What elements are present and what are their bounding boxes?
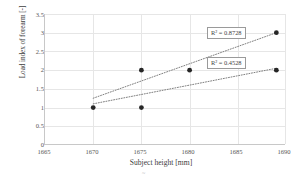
- data-point: [274, 68, 279, 73]
- x-axis-tick-label: 1665: [29, 148, 59, 155]
- y-axis-tick-label: 3: [22, 29, 44, 36]
- x-axis-title: Subject height [mm]: [36, 158, 286, 167]
- r-squared-text-lower: R² = 0.4528: [211, 59, 242, 66]
- x-axis-tick-label: 1690: [269, 148, 291, 155]
- y-axis-tick-label: 0.5: [22, 122, 44, 129]
- data-point: [187, 68, 192, 73]
- r-squared-text-upper: R² = 0.8728: [211, 29, 242, 36]
- data-point: [91, 105, 96, 110]
- y-axis-tick-label: 1.5: [22, 85, 44, 92]
- r-squared-label-lower: R² = 0.4528: [207, 57, 246, 69]
- trendline: [93, 33, 276, 99]
- y-axis-tick-label: 3.5: [22, 11, 44, 18]
- r-squared-label-upper: R² = 0.8728: [207, 27, 246, 39]
- x-axis-tick-label: 1675: [125, 148, 155, 155]
- trendline: [93, 68, 276, 104]
- y-axis-tick-label: 0: [22, 141, 44, 148]
- x-axis-tick-label: 1670: [77, 148, 107, 155]
- caption-artifact: ~: [142, 170, 145, 176]
- data-point: [274, 30, 279, 35]
- chart-figure: Load index of forearm [-] 3.5 3 2.5 2 1.…: [0, 0, 291, 181]
- trendline-group: [93, 33, 276, 104]
- x-axis-tick-label: 1685: [221, 148, 251, 155]
- y-axis-tick-label: 2.5: [22, 48, 44, 55]
- x-axis-tick-label: 1680: [173, 148, 203, 155]
- data-point: [139, 68, 144, 73]
- plot-area: [44, 14, 285, 145]
- y-axis-tick-label: 2: [22, 66, 44, 73]
- data-point: [139, 105, 144, 110]
- plot-svg: [45, 14, 286, 145]
- y-axis-tick-label: 1: [22, 104, 44, 111]
